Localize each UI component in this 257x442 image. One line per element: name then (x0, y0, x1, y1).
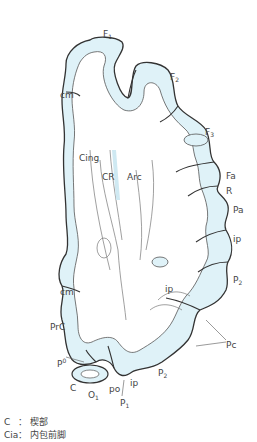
label-f2: F2 (170, 73, 179, 83)
legend: C ： 楔部 Cia ： 内包前脚 (4, 416, 66, 442)
label-p2-right: P2 (233, 276, 242, 286)
legend-row: Cia ： 内包前脚 (4, 429, 66, 442)
label-f1: F1 (103, 30, 112, 40)
deep-island (152, 257, 168, 267)
legend-key: C (4, 416, 18, 429)
label-prc: PrC (50, 323, 65, 332)
legend-value: 内包前脚 (30, 429, 66, 442)
label-fa: Fa (226, 172, 236, 181)
legend-row: C ： 楔部 (4, 416, 66, 429)
label-ip-mid: ip (165, 285, 173, 294)
label-p0: P0 (57, 358, 66, 369)
label-cm-top: cm (60, 91, 74, 100)
label-pc: Pc (226, 341, 236, 350)
label-c: C (70, 384, 76, 393)
label-o1: O1 (88, 391, 99, 401)
legend-separator: ： (18, 429, 30, 442)
label-f3: F3 (205, 128, 214, 138)
label-po: po (109, 385, 120, 394)
label-cing: Cing (79, 154, 99, 163)
legend-value: 楔部 (30, 416, 48, 429)
label-r: R (226, 187, 232, 196)
label-cr: CR (102, 173, 115, 182)
legend-key: Cia (4, 429, 18, 442)
label-p2-bottom: P2 (158, 369, 167, 379)
label-ip-bottom: ip (130, 379, 138, 388)
label-arc: Arc (127, 173, 142, 182)
label-cm-bottom: cm (60, 288, 74, 297)
label-p1: P1 (120, 399, 129, 409)
label-pa: Pa (233, 206, 244, 215)
label-ip-right: ip (233, 235, 241, 244)
legend-separator: ： (18, 416, 30, 429)
